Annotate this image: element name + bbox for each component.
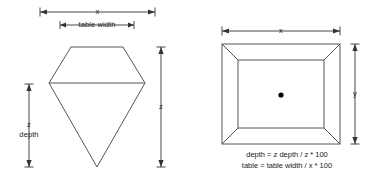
side-view-z-label: z bbox=[159, 102, 163, 111]
side-view-table-width-label: table width bbox=[79, 20, 116, 29]
top-view-y-label: y bbox=[353, 89, 357, 98]
gem-proportions-diagram: x table width z depth z x y depth = z de… bbox=[0, 0, 374, 186]
side-view-z-depth-label-line2: depth bbox=[19, 130, 38, 139]
depth-formula: depth = z depth / z * 100 bbox=[246, 150, 328, 161]
side-view-z-depth-label-line1: z bbox=[27, 120, 31, 129]
gem-profile-outline bbox=[49, 47, 145, 167]
top-view-x-label: x bbox=[279, 26, 283, 35]
center-point-dot bbox=[278, 92, 283, 97]
side-view-x-label: x bbox=[96, 7, 100, 16]
table-formula: table = table width / x * 100 bbox=[242, 161, 332, 172]
